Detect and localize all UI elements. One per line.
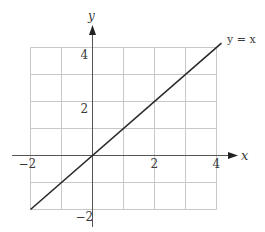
x-axis-arrow-icon [228,152,238,159]
y-tick-label: 2 [81,102,89,116]
x-tick-label: −2 [19,157,37,171]
line-label: y = x [226,33,256,46]
x-tick-label: 4 [213,157,221,171]
y-axis-arrow-icon [89,25,96,35]
x-axis-label: x [241,148,249,163]
x-tick-label: 2 [151,157,159,171]
tick-labels: −22442−2 [19,48,221,224]
line-chart: −22442−2 x y y = x [0,0,265,232]
line-y-equals-x [31,43,222,209]
y-tick-label: −2 [76,210,94,224]
y-axis-label: y [87,9,95,23]
y-tick-label: 4 [81,48,89,62]
